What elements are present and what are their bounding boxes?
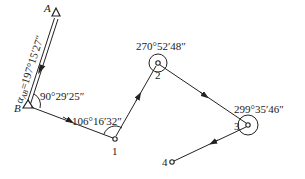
traverse-diagram: A B 1 2 3 4 αAB=197°15′27″ 90°29′25″ 106… — [0, 0, 305, 179]
station-2-marker — [156, 61, 160, 65]
station-4-label: 4 — [162, 156, 168, 168]
leg-3-4 — [174, 127, 246, 161]
angle-b-value: 90°29′25″ — [40, 90, 84, 102]
station-1-marker — [113, 137, 117, 141]
station-4-marker — [170, 160, 174, 164]
azimuth-value: =197°15′27″ — [17, 34, 46, 91]
station-3-marker — [246, 123, 250, 127]
station-1-label: 1 — [112, 145, 118, 157]
point-a-triangle-icon — [52, 8, 60, 16]
angle-1-value: 106°16′32″ — [72, 115, 122, 127]
angle-2-value: 270°52′48″ — [136, 40, 186, 52]
angle-3-value: 299°35′46″ — [234, 103, 284, 115]
station-2-label: 2 — [155, 69, 161, 81]
station-3-label: 3 — [234, 120, 240, 132]
point-a-label: A — [43, 2, 51, 14]
